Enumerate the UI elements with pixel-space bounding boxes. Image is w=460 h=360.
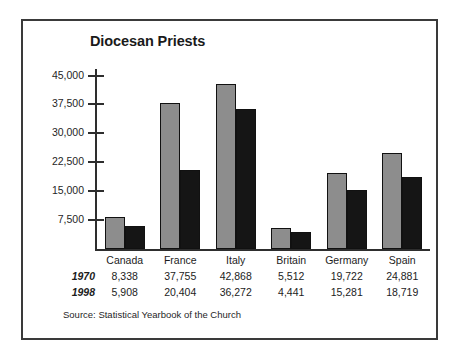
chart-page: Diocesan Priests 7,50015,00022,50030,000… — [0, 0, 460, 360]
y-axis-tick-label-text: 22,500 — [22, 155, 84, 167]
bar-germany-1970 — [327, 173, 347, 249]
bar-italy-1998 — [236, 109, 256, 249]
row-header-1970: 1970 — [37, 270, 95, 282]
y-axis-tick — [88, 103, 104, 105]
y-axis-tick-label: 30,000 — [23, 126, 84, 138]
y-axis-tick-label: 22,500 — [23, 155, 84, 167]
table-header-row: CanadaFranceItalyBritainGermanySpain — [23, 254, 440, 270]
y-axis-tick — [88, 75, 104, 77]
y-axis-tick-label: 45,000 — [23, 69, 84, 81]
x-axis-baseline — [95, 249, 430, 251]
y-axis-line — [95, 69, 97, 251]
bar-canada-1970 — [105, 217, 125, 249]
table-row: 19985,90820,40436,2724,44115,28118,719 — [23, 286, 440, 302]
y-axis-tick-label-text: 7,500 — [22, 213, 84, 225]
y-axis-tick-label-text: 45,000 — [22, 69, 84, 81]
bar-france-1970 — [160, 103, 180, 249]
y-axis-tick-label: 15,000 — [23, 184, 84, 196]
value-1970-spain: 24,881 — [366, 270, 438, 282]
bar-britain-1970 — [271, 228, 291, 249]
bar-italy-1970 — [216, 84, 236, 249]
y-axis-tick-label-text: 30,000 — [22, 126, 84, 138]
bar-spain-1970 — [382, 153, 402, 249]
y-axis-tick-label: 7,500 — [23, 213, 84, 225]
value-1998-spain: 18,719 — [366, 286, 438, 298]
table-row: 19708,33837,75542,8685,51219,72224,881 — [23, 270, 440, 286]
source-note: Source: Statistical Yearbook of the Chur… — [63, 309, 241, 320]
bar-spain-1998 — [402, 177, 422, 249]
y-axis-tick-label-text: 37,500 — [22, 97, 84, 109]
data-table: CanadaFranceItalyBritainGermanySpain 197… — [23, 254, 440, 302]
y-axis-tick — [88, 132, 104, 134]
bar-canada-1998 — [125, 226, 145, 249]
chart-frame: Diocesan Priests 7,50015,00022,50030,000… — [21, 19, 438, 340]
bar-britain-1998 — [291, 232, 311, 249]
category-label-spain: Spain — [366, 254, 438, 266]
y-axis-tick — [88, 219, 104, 221]
y-axis-tick — [88, 161, 104, 163]
y-axis-tick-label: 37,500 — [23, 97, 84, 109]
bar-germany-1998 — [347, 190, 367, 249]
y-axis-tick-label-text: 15,000 — [22, 184, 84, 196]
bar-france-1998 — [180, 170, 200, 249]
row-header-1998: 1998 — [37, 286, 95, 298]
y-axis-tick — [88, 190, 104, 192]
